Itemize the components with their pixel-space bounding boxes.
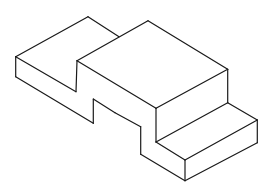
front-step	[156, 103, 257, 181]
edge-line	[185, 120, 257, 160]
edge-line	[16, 77, 94, 124]
edge-line	[88, 17, 119, 37]
edge-line	[16, 17, 88, 57]
edge-line	[115, 113, 141, 127]
edge-line	[77, 21, 148, 61]
edge-line	[93, 99, 115, 113]
left-block	[16, 17, 119, 124]
edge-line	[16, 57, 76, 92]
edge-line	[185, 143, 257, 181]
edge-line	[77, 61, 156, 109]
edge-line	[156, 69, 228, 108]
edge-line	[141, 154, 185, 180]
edge-line	[156, 142, 185, 160]
center-block	[77, 21, 228, 181]
edge-line	[156, 103, 228, 142]
edge-line	[148, 21, 228, 70]
isometric-block-drawing	[0, 0, 275, 189]
edge-line	[228, 103, 258, 120]
edge-line	[76, 61, 77, 92]
